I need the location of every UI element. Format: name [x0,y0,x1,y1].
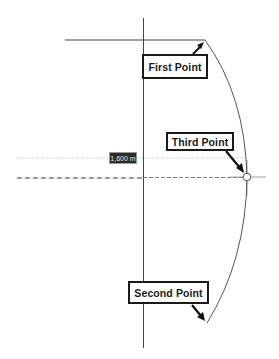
dimension-value: 1,600 m [110,155,135,162]
drawing-canvas [0,0,279,359]
arrow-icon-first-point [193,42,204,54]
arrow-icon-second-point [192,305,205,321]
arc-curve [205,40,247,323]
callout-second-point: Second Point [128,281,209,304]
callout-third-point: Third Point [166,132,234,151]
callout-third-point-label: Third Point [172,136,229,148]
dimension-input-box[interactable]: 1,600 m [109,152,137,164]
callout-second-point-label: Second Point [134,287,202,299]
callout-first-point-label: First Point [148,61,201,73]
arrow-icon-third-point [226,151,244,173]
callout-first-point: First Point [142,54,208,79]
third-point-snap-marker[interactable] [243,173,251,181]
